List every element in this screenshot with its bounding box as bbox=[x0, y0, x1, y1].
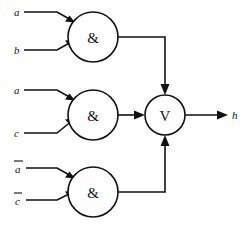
wire-input-a-top bbox=[24, 12, 73, 21]
wire-input-c-bar bbox=[26, 192, 73, 200]
wire-and-top-to-or-group bbox=[118, 37, 170, 95]
and-gate-top-symbol: & bbox=[87, 30, 99, 46]
label-input-a-middle: a bbox=[14, 84, 20, 96]
and-gate-bottom-symbol: & bbox=[87, 185, 99, 201]
or-gate-group: V bbox=[145, 95, 185, 135]
or-gate-symbol: V bbox=[160, 108, 171, 124]
arrowhead-or-bottom-input bbox=[161, 135, 170, 146]
arrowhead-or-top-input bbox=[161, 84, 170, 95]
arrowhead-output-h bbox=[217, 111, 228, 120]
wire-input-a-middle bbox=[24, 90, 73, 99]
circuit-canvas: & & & bbox=[0, 0, 250, 229]
label-output-h: h bbox=[232, 109, 238, 121]
and-gate-middle-group: & bbox=[24, 90, 118, 140]
logic-circuit-diagram: & & & bbox=[0, 0, 250, 229]
label-input-b: b bbox=[14, 44, 20, 56]
and-gate-top-group: & bbox=[24, 12, 118, 62]
wire-input-b bbox=[24, 41, 73, 50]
label-input-a-bar: a bbox=[15, 163, 21, 175]
wire-and-top-to-or bbox=[118, 37, 165, 90]
and-gate-bottom-group: & bbox=[26, 167, 118, 217]
wire-and-bottom-to-or bbox=[118, 140, 165, 192]
wire-and-bottom-to-or-group bbox=[118, 135, 170, 192]
wire-input-c bbox=[24, 120, 73, 133]
arrowhead-or-left-input bbox=[134, 111, 145, 120]
label-input-a-top: a bbox=[14, 6, 20, 18]
wire-input-a-bar bbox=[26, 168, 73, 177]
label-input-c-bar: c bbox=[15, 195, 20, 207]
and-gate-middle-symbol: & bbox=[87, 108, 99, 124]
wire-and-middle-to-or-group bbox=[118, 111, 145, 120]
label-input-c: c bbox=[14, 127, 19, 139]
input-label-group: a b a c a c bbox=[14, 6, 23, 207]
wire-or-output-group bbox=[185, 111, 228, 120]
